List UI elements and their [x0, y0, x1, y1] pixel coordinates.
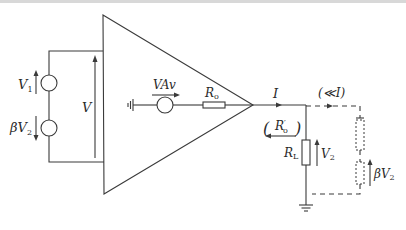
feedback-dashed-top — [306, 106, 360, 118]
ro-prime-paren-right: ) — [294, 119, 301, 138]
ro-label: Ro — [204, 86, 219, 101]
vav-source-icon — [157, 97, 173, 113]
scan-edge — [0, 0, 406, 3]
ro-prime-arrow-icon — [265, 134, 296, 139]
input-loop — [49, 51, 104, 162]
current-arrow-icon — [276, 103, 282, 108]
feedback-source-dashed-icon — [356, 162, 364, 184]
input-voltage-arrow-icon — [93, 55, 98, 158]
v2-arrow-icon — [315, 139, 320, 166]
beta-v2-out-arrow-icon — [368, 159, 373, 186]
current-label: I — [272, 86, 279, 101]
feedback-resistor-dashed-icon — [356, 120, 364, 150]
small-current-arrow-icon — [327, 104, 333, 109]
v1-label: V1 — [18, 77, 32, 94]
ro-prime-label: R′o — [274, 118, 288, 135]
ground-icon — [128, 99, 133, 111]
output-ground-icon — [299, 205, 313, 211]
vav-label: VAv — [153, 78, 176, 92]
input-voltage-label: V — [82, 100, 93, 115]
beta-v2-arrow-icon — [34, 116, 39, 141]
feedback-voltage-label: βV2 — [373, 167, 395, 182]
amplifier-circuit-diagram: V1 βV2 V VAv Ro I ( ) R′o RL — [0, 0, 406, 230]
small-current-label: (≪I) — [318, 86, 345, 100]
ro-resistor-icon — [203, 102, 225, 108]
beta-v2-source-icon — [41, 120, 57, 136]
rl-label: RL — [283, 146, 299, 161]
feedback-dashed-bottom — [312, 184, 360, 194]
rl-resistor-icon — [302, 140, 310, 165]
v1-source-icon — [41, 75, 57, 91]
v1-arrow-icon — [34, 70, 39, 94]
beta-v2-label: βV2 — [9, 120, 32, 137]
v2-label: V2 — [321, 147, 335, 162]
